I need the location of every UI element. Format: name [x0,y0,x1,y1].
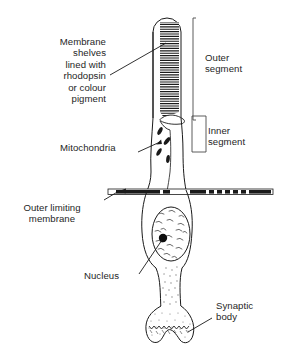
leader-mitochondria [138,142,160,152]
outer-segment-bracket [193,18,196,120]
nucleolus [159,234,167,242]
segment-brackets [192,18,206,152]
label-outer-limiting-membrane: Outer limiting membrane [4,202,100,225]
inner-segment-right-wall [181,118,186,190]
label-nucleus: Nucleus [84,270,142,281]
inner-segment-left-wall [147,32,153,191]
mitochondrion [156,126,163,135]
axon-right-wall [180,268,182,310]
mitochondrion [155,147,162,156]
label-synaptic-body: Synaptic body [216,300,280,323]
leader-lines [104,43,212,332]
mitochondrion [163,136,172,146]
arrowhead-mitochondria [155,140,163,147]
nucleus-outline [152,207,190,261]
leader-nucleus [139,240,162,274]
label-outer-segment: Outer segment [205,52,277,75]
label-mitochondria: Mitochondria [60,142,136,153]
axon-texture [162,266,178,309]
outer-limiting-membrane-band [108,189,273,194]
membrane-disc-stack [158,20,182,120]
inner-segment-bracket [192,116,206,152]
leader-membrane-shelves [110,43,166,75]
synaptic-body-outline [146,306,194,343]
label-inner-segment: Inner segment [208,125,278,148]
axon-left-wall [156,268,161,310]
mitochondria [155,126,171,163]
mitochondrion [166,155,171,163]
label-membrane-shelves: Membrane shelves lined with rhodopsin or… [36,36,106,104]
figure-canvas: Membrane shelves lined with rhodopsin or… [0,0,282,348]
